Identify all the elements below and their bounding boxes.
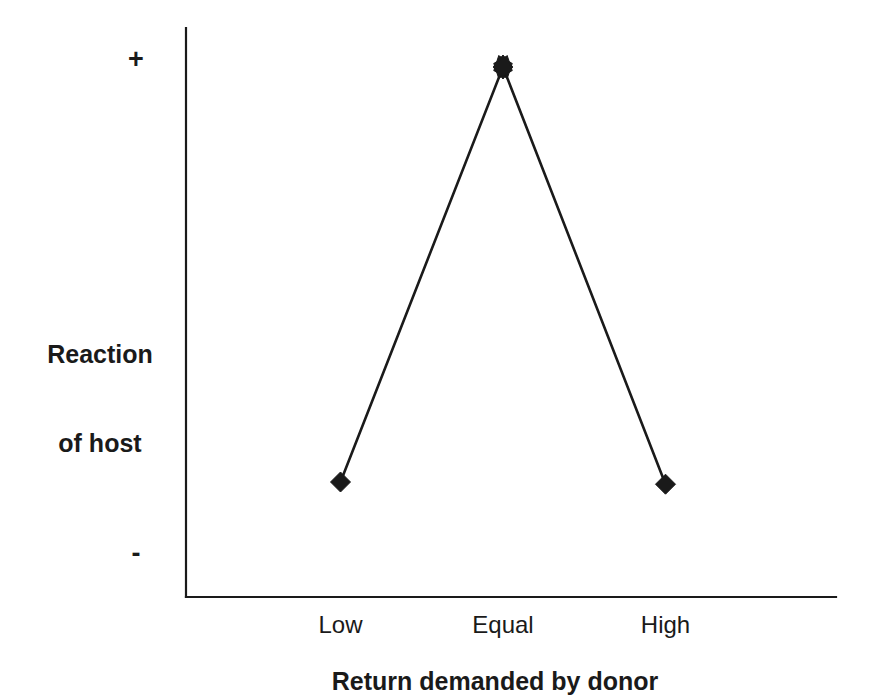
y-axis-title-line-2: of host: [20, 429, 180, 459]
data-line-series-0: [341, 67, 666, 484]
data-point-marker-equal[interactable]: [490, 52, 517, 81]
x-axis-title: Return demanded by donor: [245, 667, 745, 697]
data-point-marker-high[interactable]: [656, 474, 676, 494]
chart-figure: + - Reaction of host Low Equal High Retu…: [0, 0, 878, 700]
y-axis-title-line-1: Reaction: [20, 340, 180, 370]
x-tick-label-equal: Equal: [423, 611, 583, 639]
y-axis-title: Reaction of host: [20, 281, 180, 517]
y-axis-positive-label: +: [122, 44, 150, 76]
data-point-marker-low[interactable]: [331, 472, 351, 492]
x-tick-label-high: High: [586, 611, 746, 639]
y-axis-negative-label: -: [122, 538, 150, 570]
x-tick-label-low: Low: [261, 611, 421, 639]
